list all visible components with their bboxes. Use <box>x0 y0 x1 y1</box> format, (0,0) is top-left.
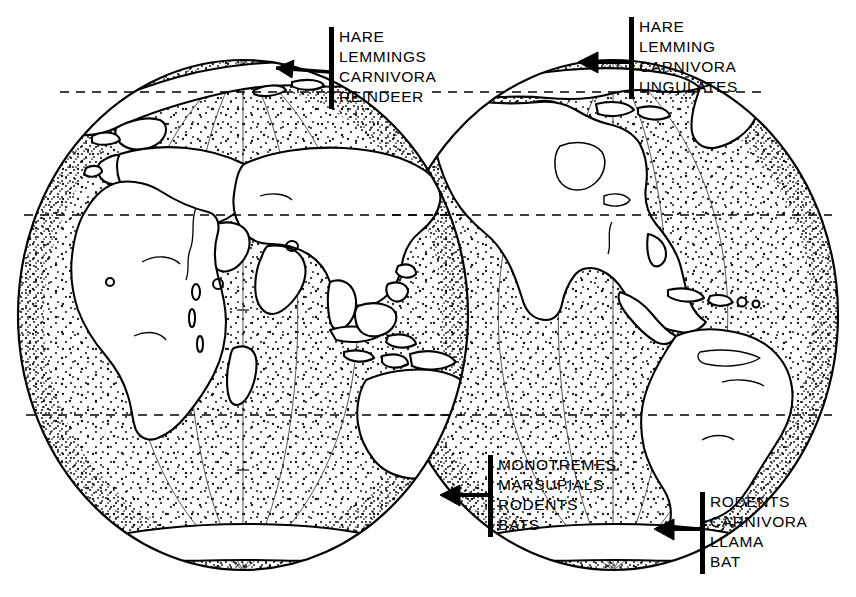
callout-label-list: MONOTREMES MARSUPIALS RODENTS BATS <box>493 455 617 535</box>
callout-item: CARNIVORA <box>339 67 437 87</box>
australia-callout: MONOTREMES MARSUPIALS RODENTS BATS <box>488 455 617 537</box>
callout-label-list: HARE LEMMINGS CARNIVORA REINDEER <box>334 27 437 107</box>
arctic-north-america-callout: HARE LEMMING CARNIVORA UNGULATES <box>629 17 738 99</box>
callout-label-list: RODENTS CARNIVORA LLAMA BAT <box>705 492 808 572</box>
callout-item: MARSUPIALS <box>498 475 617 495</box>
south-america-callout: RODENTS CARNIVORA LLAMA BAT <box>700 492 808 574</box>
callout-item: REINDEER <box>339 87 437 107</box>
callout-item: BATS <box>498 515 617 535</box>
callout-item: RODENTS <box>498 495 617 515</box>
callout-item: UNGULATES <box>639 77 738 97</box>
callout-item: CARNIVORA <box>710 512 808 532</box>
globe-eastern-hemisphere <box>18 60 496 570</box>
world-map-figure: HARE LEMMINGS CARNIVORA REINDEER HARE LE… <box>0 0 856 597</box>
callout-item: MONOTREMES <box>498 455 617 475</box>
callout-item: LLAMA <box>710 532 808 552</box>
arctic-eurasia-callout: HARE LEMMINGS CARNIVORA REINDEER <box>329 27 437 109</box>
callout-item: LEMMING <box>639 37 738 57</box>
callout-label-list: HARE LEMMING CARNIVORA UNGULATES <box>634 17 738 97</box>
callout-item: LEMMINGS <box>339 47 437 67</box>
callout-item: BAT <box>710 552 808 572</box>
callout-item: HARE <box>339 27 437 47</box>
callout-item: HARE <box>639 17 738 37</box>
callout-item: RODENTS <box>710 492 808 512</box>
callout-item: CARNIVORA <box>639 57 738 77</box>
